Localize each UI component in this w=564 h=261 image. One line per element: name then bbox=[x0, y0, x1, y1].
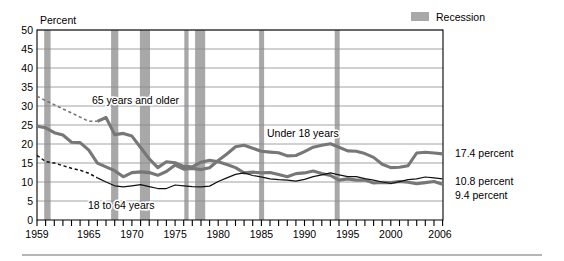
x-tick-label: 1985 bbox=[250, 228, 274, 240]
legend-recession-swatch bbox=[411, 12, 429, 21]
y-tick-label: 30 bbox=[21, 100, 33, 112]
legend-recession-label: Recession bbox=[436, 11, 485, 23]
y-tick-label: 40 bbox=[21, 62, 33, 74]
y-tick-label: 25 bbox=[21, 119, 33, 131]
x-tick-label: 1965 bbox=[77, 228, 101, 240]
x-tick-label: 2000 bbox=[379, 228, 403, 240]
y-tick-label: 35 bbox=[21, 81, 33, 93]
end-label-under-18-years: 17.4 percent bbox=[455, 147, 513, 159]
series-label-18-to-64-years: 18 to 64 years bbox=[88, 199, 155, 211]
y-tick-label: 10 bbox=[21, 176, 33, 188]
x-tick-label: 1975 bbox=[163, 228, 187, 240]
series-label-65-and-older: 65 years and older bbox=[92, 94, 179, 106]
series-label-under-18-years: Under 18 years bbox=[267, 127, 339, 139]
chart-svg: Percent 50 45 40 35 30 25 20 15 10 5 0 1… bbox=[0, 0, 564, 261]
x-tick-label: 1970 bbox=[120, 228, 144, 240]
y-tick-label: 45 bbox=[21, 43, 33, 55]
x-tick-label: 1990 bbox=[293, 228, 317, 240]
end-label-65-and-older: 9.4 percent bbox=[455, 189, 508, 201]
y-axis-title: Percent bbox=[40, 14, 76, 26]
y-tick-label: 15 bbox=[21, 157, 33, 169]
y-tick-label: 20 bbox=[21, 138, 33, 150]
x-tick-label: 1959 bbox=[25, 228, 49, 240]
poverty-rate-chart-figure: Percent 50 45 40 35 30 25 20 15 10 5 0 1… bbox=[0, 0, 564, 261]
y-tick-label: 5 bbox=[27, 195, 33, 207]
y-tick-label: 0 bbox=[27, 214, 33, 226]
x-tick-label: 1980 bbox=[207, 228, 231, 240]
x-tick-label: 1995 bbox=[336, 228, 360, 240]
end-label-18-to-64-years: 10.8 percent bbox=[455, 175, 513, 187]
y-tick-label: 50 bbox=[21, 24, 33, 36]
x-tick-label: 2006 bbox=[428, 228, 452, 240]
